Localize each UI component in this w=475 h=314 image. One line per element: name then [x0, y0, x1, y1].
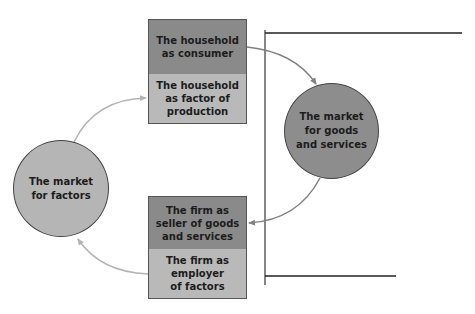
firm-box: The firm as seller of goods and services… — [148, 196, 247, 299]
arrow-factor-market-to-household — [74, 98, 146, 142]
market-for-factors-circle: The market for factors — [13, 140, 109, 237]
household-as-factor-of-production: The household as factor of production — [149, 74, 246, 123]
firm-as-employer: The firm as employer of factors — [149, 249, 246, 298]
market-for-goods-circle: The market for goods and services — [284, 83, 379, 179]
firm-as-seller: The firm as seller of goods and services — [149, 197, 246, 249]
household-box: The household as consumer The household … — [148, 19, 247, 124]
household-as-consumer: The household as consumer — [149, 20, 246, 74]
arrow-firm-to-factor-market — [78, 239, 148, 274]
arrow-goods-market-to-firm — [249, 178, 320, 223]
arrow-household-to-goods-market — [247, 47, 316, 84]
